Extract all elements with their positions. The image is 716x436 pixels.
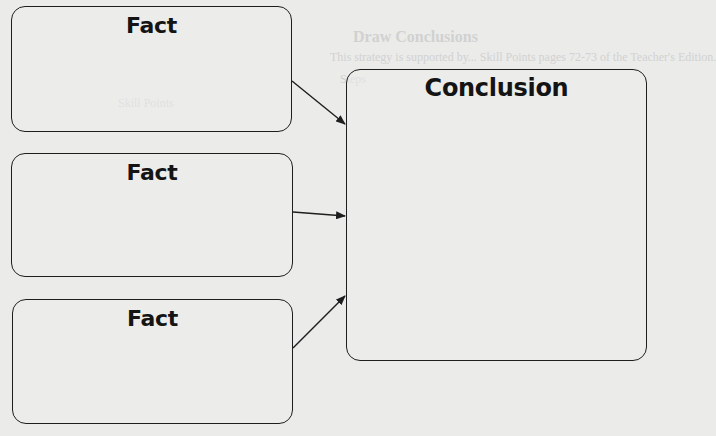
background-heading: Draw Conclusions	[353, 28, 478, 46]
fact-box-3-title: Fact	[13, 306, 292, 331]
fact-box-1: Fact	[11, 6, 292, 132]
fact-box-2: Fact	[11, 153, 293, 277]
arrow-fact-1-to-conclusion	[292, 81, 345, 124]
arrow-fact-3-to-conclusion	[293, 296, 345, 348]
fact-box-2-title: Fact	[12, 160, 292, 185]
conclusion-box: Conclusion	[346, 69, 647, 361]
fact-box-1-title: Fact	[12, 13, 291, 38]
conclusion-box-title: Conclusion	[347, 74, 646, 102]
arrow-fact-2-to-conclusion	[293, 212, 345, 216]
background-line: This strategy is supported by... Skill P…	[330, 50, 716, 64]
fact-box-3: Fact	[12, 299, 293, 424]
